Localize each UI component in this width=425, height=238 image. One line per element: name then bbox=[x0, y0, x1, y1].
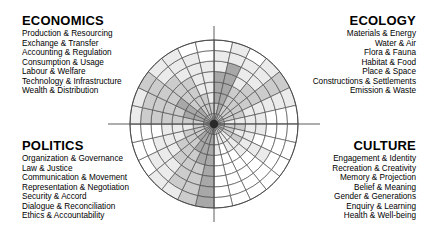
wheel-segment bbox=[214, 185, 230, 197]
list-item: Organization & Governance bbox=[22, 154, 129, 164]
list-item: Representation & Negotiation bbox=[22, 183, 129, 193]
wheel-segment bbox=[214, 165, 226, 177]
list-item: Materials & Energy bbox=[313, 29, 416, 39]
wheel-segment bbox=[265, 110, 277, 124]
wheel-segment bbox=[162, 124, 174, 136]
list-item: Exchange & Transfer bbox=[22, 39, 122, 49]
list-item: Engagement & Identity bbox=[332, 154, 416, 164]
list-item: Enquiry & Learning bbox=[332, 202, 416, 212]
wheel-center-hub bbox=[210, 120, 218, 128]
wheel-segment bbox=[198, 51, 214, 63]
quadrant-economics: ECONOMICS Production & Resourcing Exchan… bbox=[22, 14, 122, 96]
list-item: Recreation & Creativity bbox=[332, 164, 416, 174]
list-item: Consumption & Usage bbox=[22, 58, 122, 68]
list-item: Habitat & Food bbox=[313, 58, 416, 68]
quadrant-title-economics: ECONOMICS bbox=[22, 14, 122, 28]
list-item: Belief & Meaning bbox=[332, 183, 416, 193]
wheel-segment bbox=[275, 124, 287, 140]
wheel-segment bbox=[151, 124, 163, 138]
quadrant-culture: CULTURE Engagement & Identity Recreation… bbox=[332, 139, 416, 221]
wheel-segment bbox=[198, 185, 214, 197]
wheel-segment bbox=[141, 108, 153, 124]
wheel-segment bbox=[214, 175, 228, 187]
list-item: Labour & Welfare bbox=[22, 67, 122, 77]
list-item: Technology & Infrastructure bbox=[22, 77, 122, 87]
list-item: Memory & Projection bbox=[332, 173, 416, 183]
list-item: Production & Resourcing bbox=[22, 29, 122, 39]
list-item: Security & Accord bbox=[22, 192, 129, 202]
wheel-segment bbox=[275, 108, 287, 124]
quadrant-title-ecology: ECOLOGY bbox=[313, 14, 416, 28]
list-item: Ethics & Accountability bbox=[22, 211, 129, 221]
quadrant-list-economics: Production & Resourcing Exchange & Trans… bbox=[22, 29, 122, 96]
list-item: Constructions & Settlements bbox=[313, 77, 416, 87]
wheel-segment bbox=[141, 124, 153, 140]
quadrant-title-politics: POLITICS bbox=[22, 139, 129, 153]
list-item: Dialogue & Reconciliation bbox=[22, 202, 129, 212]
list-item: Flora & Fauna bbox=[313, 48, 416, 58]
quadrant-list-culture: Engagement & Identity Recreation & Creat… bbox=[332, 154, 416, 221]
quadrant-list-politics: Organization & Governance Law & Justice … bbox=[22, 154, 129, 221]
quadrant-ecology: ECOLOGY Materials & Energy Water & Air F… bbox=[313, 14, 416, 96]
list-item: Law & Justice bbox=[22, 164, 129, 174]
list-item: Accounting & Regulation bbox=[22, 48, 122, 58]
quadrant-politics: POLITICS Organization & Governance Law &… bbox=[22, 139, 129, 221]
list-item: Place & Space bbox=[313, 67, 416, 77]
wheel-segment bbox=[214, 51, 230, 63]
list-item: Communication & Movement bbox=[22, 173, 129, 183]
wheel-segment bbox=[200, 61, 214, 73]
list-item: Wealth & Distribution bbox=[22, 86, 122, 96]
list-item: Gender & Generations bbox=[332, 192, 416, 202]
list-item: Water & Air bbox=[313, 39, 416, 49]
quadrant-list-ecology: Materials & Energy Water & Air Flora & F… bbox=[313, 29, 416, 96]
quadrant-title-culture: CULTURE bbox=[332, 139, 416, 153]
list-item: Health & Well-being bbox=[332, 211, 416, 221]
list-item: Emission & Waste bbox=[313, 86, 416, 96]
wheel-segment bbox=[202, 72, 214, 84]
diagram-canvas: ECONOMICS Production & Resourcing Exchan… bbox=[0, 0, 425, 238]
wheel-segment bbox=[255, 112, 267, 124]
